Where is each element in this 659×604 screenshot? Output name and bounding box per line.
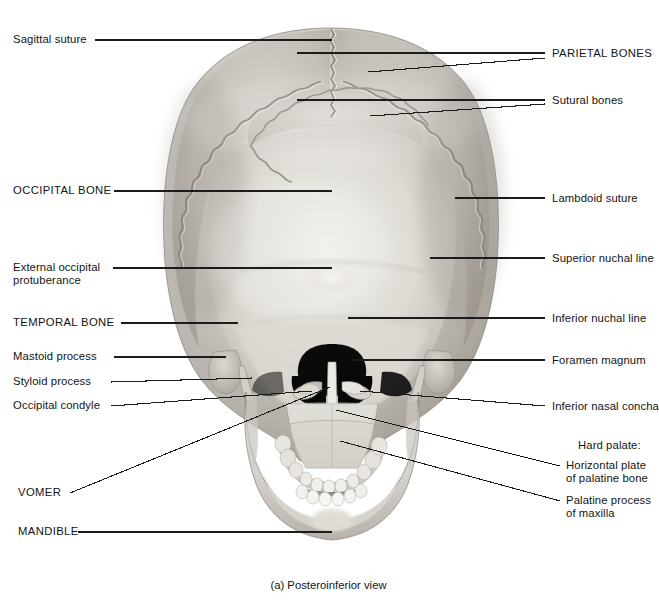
label-superior-nuchal-line: Superior nuchal line <box>552 252 654 265</box>
label-horizontal-plate-line1: Horizontal plate <box>566 459 646 472</box>
label-external-occipital-protuberance-line2: protuberance <box>13 274 81 287</box>
mental-protuberance <box>312 509 352 531</box>
palatine-process-of-maxilla <box>290 422 374 468</box>
label-occipital-bone: OCCIPITAL BONE <box>13 184 111 197</box>
label-external-occipital-protuberance-line1: External occipital <box>13 261 100 274</box>
highlight-top <box>182 74 482 166</box>
mandibular-ramus-left <box>246 394 258 468</box>
label-styloid-process: Styloid process <box>13 375 91 388</box>
label-horizontal-plate-line2: of palatine bone <box>566 472 648 485</box>
label-sagittal-suture: Sagittal suture <box>13 33 87 46</box>
label-sutural-bones: Sutural bones <box>552 94 623 107</box>
label-mastoid-process: Mastoid process <box>13 350 97 363</box>
label-hard-palate-heading: Hard palate: <box>578 439 641 452</box>
label-lambdoid-suture: Lambdoid suture <box>552 192 638 205</box>
label-palatine-process-line1: Palatine process <box>566 494 651 507</box>
highlight-occipital <box>210 180 390 320</box>
vomer <box>327 362 337 404</box>
label-occipital-condyle: Occipital condyle <box>13 399 100 412</box>
label-parietal-bones: PARIETAL BONES <box>552 47 652 60</box>
skull-illustration <box>163 28 504 540</box>
label-mandible: MANDIBLE <box>18 525 79 538</box>
label-inferior-nuchal-line: Inferior nuchal line <box>552 312 646 325</box>
mandibular-ramus-right <box>406 394 418 468</box>
label-palatine-process-line2: of maxilla <box>566 507 615 520</box>
label-temporal-bone: TEMPORAL BONE <box>13 316 114 329</box>
label-vomer: VOMER <box>18 486 61 499</box>
label-foramen-magnum: Foramen magnum <box>552 354 646 367</box>
mastoid-process-right <box>422 350 455 394</box>
figure-caption: (a) Posteroinferior view <box>0 579 657 591</box>
label-inferior-nasal-concha: Inferior nasal concha <box>552 400 659 413</box>
